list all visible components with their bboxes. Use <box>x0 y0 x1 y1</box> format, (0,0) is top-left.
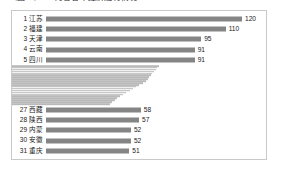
bar-track: 91 <box>46 55 266 65</box>
bar <box>46 17 242 22</box>
bar-value-label: 51 <box>129 148 139 155</box>
bar <box>46 47 195 52</box>
chart-bar-row: 2 福建110 <box>12 24 266 34</box>
bar <box>46 138 131 143</box>
bar <box>46 57 195 62</box>
bar-category-label: 30 安徽 <box>12 137 46 144</box>
chart-bar-row: 31 重庆51 <box>12 146 266 156</box>
chart-bar-row: 1 江苏120 <box>12 14 266 24</box>
plot-area: 1 江苏1202 福建1103 天津954 云南915 四川9167891011… <box>12 11 266 159</box>
bar-value-label: 110 <box>226 26 240 33</box>
bar-category-label: 4 云南 <box>12 46 46 53</box>
chart-bar-row: 28 陕西57 <box>12 115 266 125</box>
bar-category-label: 27 西藏 <box>12 107 46 114</box>
bar-category-label: 31 重庆 <box>12 148 46 155</box>
bar <box>46 27 226 32</box>
bar-category-label: 5 四川 <box>12 57 46 64</box>
bar-track: 52 <box>46 136 266 146</box>
bar <box>46 37 201 42</box>
bar-category-label: 3 天津 <box>12 36 46 43</box>
bar-track: 58 <box>46 105 266 115</box>
bar-value-label: 57 <box>139 117 149 124</box>
bar-track: 120 <box>46 14 266 24</box>
bar-track: 52 <box>46 125 266 135</box>
bar <box>46 128 131 133</box>
chart-bar-row: 5 四川91 <box>12 55 266 65</box>
bar-value-label: 120 <box>242 16 256 23</box>
chart-title: （图二）1-2月各省市经济运行情况 <box>9 0 209 3</box>
bar-track: 110 <box>46 24 266 34</box>
bar-value-label: 52 <box>131 137 141 144</box>
bar-category-label: 1 江苏 <box>12 16 46 23</box>
bar-value-label: 52 <box>131 127 141 134</box>
bar <box>46 148 129 153</box>
bar-category-label: 2 福建 <box>12 26 46 33</box>
bar-value-label: 95 <box>201 36 211 43</box>
chart-bar-row: 29 内蒙52 <box>12 125 266 135</box>
bar-value-label: 58 <box>141 107 151 114</box>
bar-track: 57 <box>46 115 266 125</box>
bar-category-label: 28 陕西 <box>12 117 46 124</box>
bar-track: 51 <box>46 146 266 156</box>
chart-bar-row: 3 天津95 <box>12 34 266 44</box>
chart-bar-row: 30 安徽52 <box>12 136 266 146</box>
bar-track: 95 <box>46 34 266 44</box>
chart-frame: 1 江苏1202 福建1103 天津954 云南915 四川9167891011… <box>11 10 267 160</box>
bar <box>46 108 141 113</box>
bar-category-label: 29 内蒙 <box>12 127 46 134</box>
bar <box>46 118 139 123</box>
chart-bar-row: 27 西藏58 <box>12 105 266 115</box>
bar-track: 91 <box>46 45 266 55</box>
bar-value-label: 91 <box>195 57 205 64</box>
chart-bar-row: 4 云南91 <box>12 45 266 55</box>
bar-value-label: 91 <box>195 46 205 53</box>
